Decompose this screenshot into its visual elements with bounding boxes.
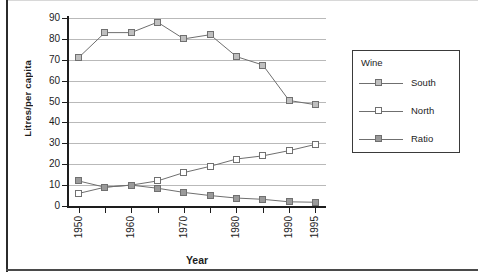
y-axis-tick-labels: 0102030405060708090 [36,0,60,277]
data-point-north [75,190,82,197]
y-axis-tick-label: 0 [38,201,60,211]
y-axis-tick-label: 60 [38,76,60,86]
y-axis-tick [62,164,67,165]
y-axis-title: Litres/per capita [22,60,36,137]
y-axis-tick-label: 20 [38,159,60,169]
data-point-south [312,101,319,108]
x-axis-tick [184,208,185,213]
legend-entry-label: South [411,77,436,88]
y-axis-tick-label: 70 [38,55,60,65]
data-point-ratio [207,192,214,199]
legend-entry-south[interactable]: South [353,75,461,93]
data-point-south [286,97,293,104]
data-point-ratio [128,182,135,189]
y-axis-tick [62,122,67,123]
legend-entry-label: North [411,105,434,116]
legend: Wine SouthNorthRatio [352,50,460,153]
data-point-ratio [101,184,108,191]
data-point-south [75,54,82,61]
data-point-north [207,163,214,170]
plot-area [68,18,326,206]
x-axis-tick-label: 1960 [126,216,136,238]
y-axis-tick-label: 40 [38,117,60,127]
y-axis-line [67,16,69,208]
data-point-ratio [75,177,82,184]
y-axis-tick-label: 80 [38,34,60,44]
series-lines [68,18,326,206]
data-point-south [233,53,240,60]
line-chart: 0102030405060708090 19501960197019801990… [0,0,484,277]
y-axis-tick-label: 50 [38,97,60,107]
data-point-north [180,169,187,176]
y-axis-tick [62,143,67,144]
series-line-south [79,22,316,105]
x-axis-tick-label: 1995 [310,216,320,238]
x-axis-tick-label: 1980 [231,216,241,238]
x-axis-tick [131,208,132,213]
y-axis-tick [62,39,67,40]
y-axis-tick [62,185,67,186]
data-point-south [154,19,161,26]
data-point-ratio [312,199,319,206]
legend-entry-ratio[interactable]: Ratio [353,131,461,149]
chart-screenshot: 0102030405060708090 19501960197019801990… [0,0,484,277]
data-point-south [207,31,214,38]
data-point-ratio [286,198,293,205]
x-axis-tick [289,208,290,213]
data-point-north [154,177,161,184]
data-point-south [259,62,266,69]
x-axis-tick-label: 1990 [284,216,294,238]
legend-entry-north[interactable]: North [353,103,461,121]
data-point-ratio [180,189,187,196]
x-axis-tick [105,208,106,213]
y-axis-tick-label: 10 [38,180,60,190]
legend-title: Wine [361,57,383,68]
y-axis-tick [62,206,67,207]
y-axis-tick [62,81,67,82]
data-point-ratio [233,195,240,202]
x-axis-tick-label: 1950 [74,216,84,238]
legend-entry-label: Ratio [411,133,433,144]
y-axis-tick [62,102,67,103]
x-axis-tick [79,208,80,213]
x-axis-tick-label: 1970 [179,216,189,238]
y-axis-tick [62,18,67,19]
x-axis-tick [158,208,159,213]
data-point-south [101,29,108,36]
legend-marker-icon [375,107,382,114]
series-line-ratio [79,181,316,202]
y-axis-tick [62,60,67,61]
data-point-north [259,152,266,159]
data-point-north [312,141,319,148]
x-axis-tick [315,208,316,213]
x-axis-line [67,206,326,208]
y-axis-tick-label: 30 [38,138,60,148]
legend-marker-icon [375,135,382,142]
data-point-south [180,35,187,42]
x-axis-tick [236,208,237,213]
data-point-north [286,147,293,154]
data-point-north [233,156,240,163]
data-point-ratio [154,185,161,192]
y-axis-tick-label: 90 [38,13,60,23]
data-point-south [128,29,135,36]
x-axis-tick [263,208,264,213]
legend-marker-icon [375,79,382,86]
data-point-ratio [259,196,266,203]
x-axis-tick [210,208,211,213]
x-axis-title: Year [68,254,326,266]
